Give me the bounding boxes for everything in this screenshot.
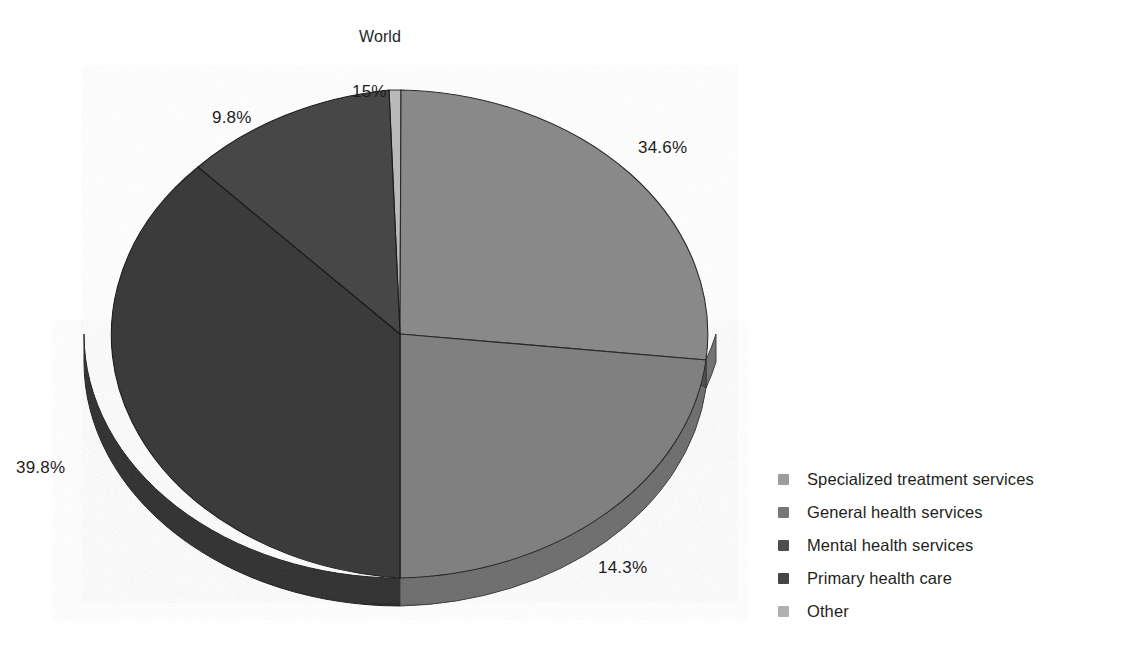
data-label-other: 15% xyxy=(352,82,387,102)
legend-item-primary-health-care: Primary health care xyxy=(778,562,1108,595)
legend-item-other: Other xyxy=(778,595,1108,628)
legend-swatch-icon xyxy=(778,606,789,617)
legend-item-specialized-treatment-services: Specialized treatment services xyxy=(778,463,1108,496)
legend-item-label: Mental health services xyxy=(807,536,973,555)
pie-slices xyxy=(111,90,708,578)
legend-item-label: General health services xyxy=(807,503,983,522)
legend-swatch-icon xyxy=(778,540,789,551)
data-label-primary-health-care: 39.8% xyxy=(16,458,65,478)
slice-specialized-treatment-services xyxy=(400,90,708,360)
data-label-specialized-treatment-services: 34.6% xyxy=(638,138,687,158)
legend-swatch-icon xyxy=(778,573,789,584)
legend-item-label: Other xyxy=(807,602,849,621)
legend-item-label: Primary health care xyxy=(807,569,952,588)
slice-general-health-services xyxy=(400,334,706,578)
legend-swatch-icon xyxy=(778,474,789,485)
data-label-general-health-services: 14.3% xyxy=(598,558,647,578)
legend-item-mental-health-services: Mental health services xyxy=(778,529,1108,562)
legend-swatch-icon xyxy=(778,507,789,518)
pie-chart-area: World xyxy=(0,0,790,657)
data-label-mental-health-services: 9.8% xyxy=(212,108,252,128)
legend-item-general-health-services: General health services xyxy=(778,496,1108,529)
chart-legend: Specialized treatment services General h… xyxy=(778,463,1108,628)
legend-item-label: Specialized treatment services xyxy=(807,470,1034,489)
pie-chart-graphic xyxy=(0,0,790,657)
